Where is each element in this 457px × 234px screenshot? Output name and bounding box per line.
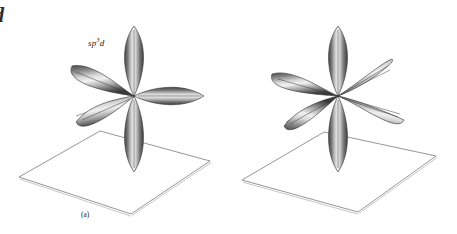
orbital-lobe — [271, 73, 338, 96]
orbital-lobe — [125, 26, 144, 96]
orbital-lobe — [134, 87, 204, 104]
orbital-lobe — [71, 66, 134, 96]
panel-caption-a: (a) — [81, 210, 89, 219]
orbital-lobe — [338, 96, 404, 124]
panel-sp3d: sp3d (a) — [0, 0, 228, 234]
orbital-lobe — [329, 26, 348, 96]
orbital-lobe — [125, 96, 144, 172]
orbital-figure: d e s — [0, 0, 457, 234]
orbital-label-a: sp3d — [88, 36, 104, 48]
orbital-scene-a — [0, 0, 228, 234]
orbital-scene-b — [228, 0, 456, 234]
orbital-lobe — [76, 96, 134, 126]
reference-plane-a — [19, 131, 211, 216]
orbital-lobe — [329, 96, 348, 172]
panel-sp3d2: sp3d2 (b) — [228, 0, 456, 234]
orbital-label-a-mid: d — [100, 38, 105, 48]
